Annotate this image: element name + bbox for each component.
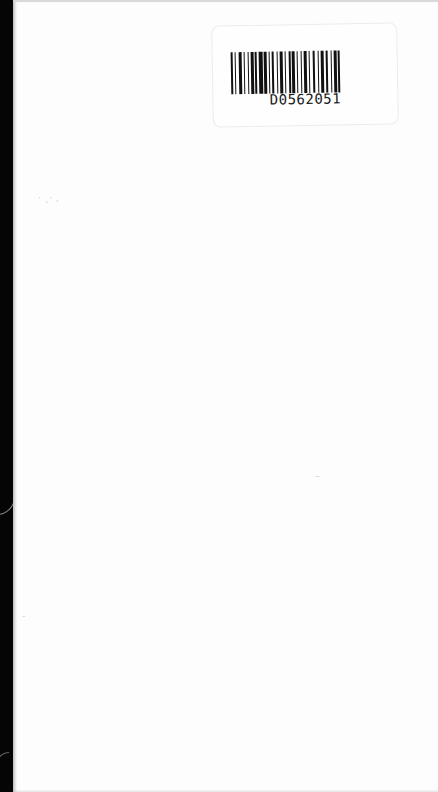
barcode-label: D0562051 xyxy=(211,22,399,127)
scanned-page: · ¸· , – - xyxy=(0,0,438,792)
bleed-through-mark: - xyxy=(22,610,25,621)
page-binding-edge xyxy=(0,0,13,792)
bleed-through-mark: · ¸· , xyxy=(38,192,59,203)
bleed-through-mark: – xyxy=(315,470,320,481)
barcode-number: D0562051 xyxy=(213,89,397,108)
top-edge-shadow xyxy=(13,0,438,2)
barcode-icon xyxy=(231,50,378,95)
page-curl-mark-bottom xyxy=(0,752,9,789)
